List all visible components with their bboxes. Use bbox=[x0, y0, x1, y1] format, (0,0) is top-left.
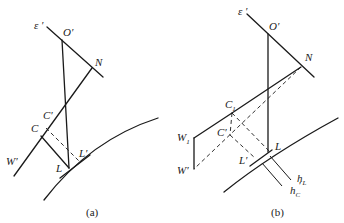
label-epsilon-b: ε ′ bbox=[238, 5, 248, 17]
c-to-lprime-dashed-a bbox=[46, 128, 80, 162]
panel-a: ε ′ O′ N C′ C W′ L L′ (a) bbox=[6, 19, 158, 219]
caption-a: (a) bbox=[86, 206, 99, 219]
epsilon-line-b bbox=[247, 14, 314, 77]
label-n-a: N bbox=[94, 56, 103, 68]
label-l-a: L bbox=[55, 162, 62, 174]
epsilon-line-a bbox=[47, 27, 103, 77]
label-o-b: O′ bbox=[269, 20, 280, 32]
label-l-b: L bbox=[274, 140, 281, 152]
label-lprime-a: L′ bbox=[78, 147, 88, 159]
label-w1-b: W1 bbox=[177, 131, 190, 146]
label-epsilon-a: ε ′ bbox=[34, 19, 44, 31]
c-to-l-line-a bbox=[41, 136, 69, 168]
label-n-b: N bbox=[304, 51, 313, 63]
label-c1-b: C1 bbox=[225, 98, 236, 113]
panel-b: ε ′ O′ N C1 C′ W1 W′ L L′ hL hC′ (b) bbox=[177, 5, 338, 219]
label-wprime-b: W′ bbox=[177, 164, 189, 176]
label-cprime-b: C′ bbox=[217, 126, 227, 138]
c1-to-l-dashed-b bbox=[232, 113, 270, 152]
c1-to-cprime-dashed-b bbox=[230, 113, 232, 135]
label-cprime-a: C′ bbox=[43, 109, 53, 121]
l-segment-b bbox=[250, 150, 272, 166]
label-c-a: C bbox=[31, 122, 39, 134]
n-to-w-line-a bbox=[14, 68, 92, 176]
diagram-canvas: ε ′ O′ N C′ C W′ L L′ (a) bbox=[0, 0, 344, 223]
caption-b: (b) bbox=[271, 206, 284, 219]
label-wprime-a: W′ bbox=[6, 155, 18, 167]
label-hc-b: hC′ bbox=[290, 179, 301, 199]
label-lprime-b: L′ bbox=[238, 154, 248, 166]
label-o-a: O′ bbox=[63, 26, 74, 38]
n-to-c1-line-b bbox=[232, 67, 301, 113]
